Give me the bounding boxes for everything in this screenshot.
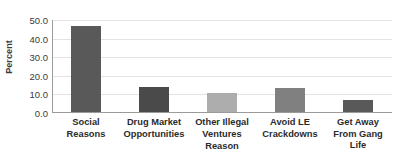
x-axis-category-label-line: Avoid LE [270, 117, 310, 127]
bar[interactable] [71, 26, 101, 112]
y-axis-title-text: Percent [4, 40, 14, 74]
bar-slot [188, 20, 256, 112]
bar-slot [324, 20, 392, 112]
x-axis-category-label-line: Crackdowns [257, 129, 323, 141]
y-axis-tick-label: 10.0 [30, 89, 49, 100]
x-axis-category-label-line: Drug Market [127, 117, 181, 127]
y-axis-tick-label: 0.0 [35, 108, 48, 119]
y-axis-tick-labels: 50.040.030.020.010.00.0 [16, 0, 50, 120]
x-axis-category-label-line: Ventures [189, 129, 255, 141]
y-axis-tick-label: 40.0 [30, 33, 49, 44]
bar-slot [120, 20, 188, 112]
x-axis-line [52, 112, 392, 113]
bar-chart: Percent 50.040.030.020.010.00.0 Social R… [0, 0, 394, 168]
bar[interactable] [343, 100, 373, 112]
x-axis-category-label-line: Social Reasons [67, 117, 106, 139]
x-axis-category-label-line: Get Away [337, 117, 379, 127]
bar[interactable] [275, 88, 305, 112]
bar[interactable] [207, 93, 237, 112]
bar-series [52, 20, 392, 112]
bar-slot [52, 20, 120, 112]
bar-slot [256, 20, 324, 112]
plot-area [52, 20, 392, 113]
y-axis-tick-label: 20.0 [30, 70, 49, 81]
x-axis-category-label-line: Other Illegal [195, 117, 249, 127]
bar[interactable] [139, 87, 169, 112]
x-axis-title: Reason [52, 141, 392, 151]
x-axis-category-label-line: Opportunities [121, 129, 187, 141]
y-axis-tick-label: 30.0 [30, 52, 49, 63]
y-axis-tick-label: 50.0 [30, 15, 49, 26]
